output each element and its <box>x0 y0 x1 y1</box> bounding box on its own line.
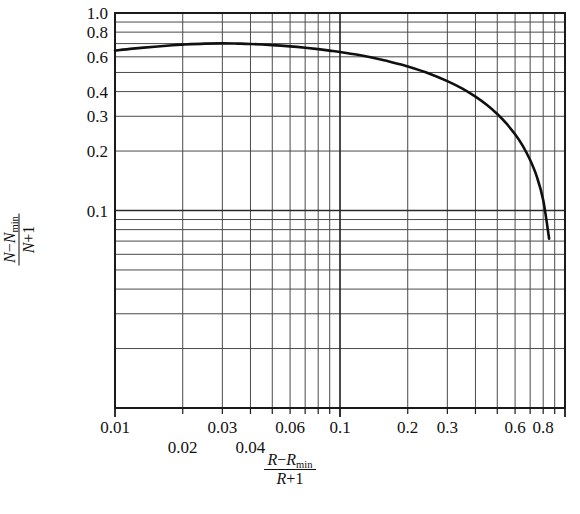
y-axis-title: N−Nmin N+1 <box>2 195 37 285</box>
y-den-one: 1 <box>20 226 37 234</box>
x-num-var-a: R <box>267 451 277 468</box>
y-axis-tick-labels: 1.00.80.60.40.30.20.1 <box>87 4 109 221</box>
y-tick-label-0.4: 0.4 <box>87 83 109 102</box>
y-num-var-a: N <box>1 252 18 263</box>
y-tick-label-0.8: 0.8 <box>87 23 108 42</box>
x-den-var-a: R <box>277 470 287 487</box>
y-tick-label-0.3: 0.3 <box>87 107 108 126</box>
x-tick-label-0.8: 0.8 <box>533 418 554 437</box>
y-num-minus: − <box>1 243 18 252</box>
x-axis-title-numerator: R−Rmin <box>264 452 315 470</box>
y-axis-title-numerator: N−Nmin <box>2 213 20 266</box>
y-den-var-a: N <box>20 243 37 254</box>
y-tick-label-0.6: 0.6 <box>87 48 108 67</box>
y-num-subscript: min <box>9 216 20 232</box>
x-axis-title-denominator: R+1 <box>264 470 315 487</box>
x-tick-label-0.6: 0.6 <box>504 418 525 437</box>
x-tick-label-0.06: 0.06 <box>275 418 305 437</box>
chart-figure: 1.00.80.60.40.30.20.1 0.010.030.060.10.2… <box>0 0 580 514</box>
x-den-one: 1 <box>295 470 303 487</box>
x-tick-label-0.01: 0.01 <box>100 418 130 437</box>
y-tick-label-1.0: 1.0 <box>87 4 108 23</box>
y-axis-title-denominator: N+1 <box>20 213 37 266</box>
y-num-var-b: N <box>1 233 18 244</box>
y-tick-label-0.2: 0.2 <box>87 142 108 161</box>
x-axis-title-fraction: R−Rmin R+1 <box>264 452 315 487</box>
x-tick-label-0.2: 0.2 <box>397 418 418 437</box>
x-num-minus: − <box>277 451 286 468</box>
gilliland-correlation-plot: 1.00.80.60.40.30.20.1 0.010.030.060.10.2… <box>0 0 580 514</box>
x-tick-label-0.03: 0.03 <box>207 418 237 437</box>
y-axis-title-fraction: N−Nmin N+1 <box>2 213 37 266</box>
x-axis-title: R−Rmin R+1 <box>0 452 580 487</box>
x-axis-ticks <box>115 408 565 417</box>
x-tick-label-0.3: 0.3 <box>437 418 458 437</box>
y-tick-label-0.1: 0.1 <box>87 202 108 221</box>
x-num-subscript: min <box>296 459 312 470</box>
x-axis-tick-labels-upper: 0.010.030.060.10.20.30.60.8 <box>100 418 554 437</box>
x-num-var-b: R <box>286 451 296 468</box>
x-tick-label-0.1: 0.1 <box>329 418 350 437</box>
y-den-plus: + <box>20 234 37 243</box>
